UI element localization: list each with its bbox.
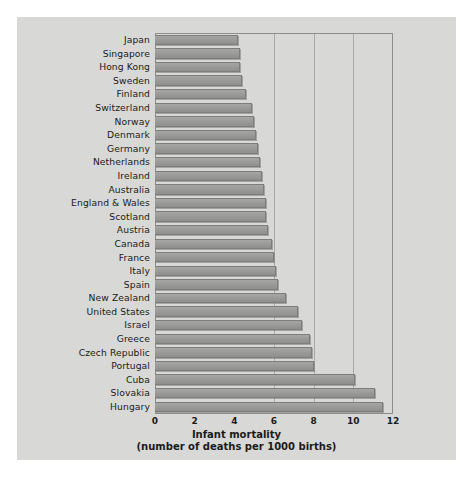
category-label: Cuba xyxy=(0,373,150,387)
bar xyxy=(155,130,256,140)
bar-row: Australia xyxy=(34,183,393,197)
bar xyxy=(155,184,264,194)
bar-row: Slovakia xyxy=(34,386,393,400)
bar-row: Hong Kong xyxy=(34,60,393,74)
bar-row: Cuba xyxy=(34,373,393,387)
category-label: Singapore xyxy=(0,47,150,61)
bar-row: France xyxy=(34,251,393,265)
bar-row: Switzerland xyxy=(34,101,393,115)
bar xyxy=(155,361,314,371)
category-label: England & Wales xyxy=(0,196,150,210)
bar-row: Hungary xyxy=(34,400,393,414)
bar-track xyxy=(155,48,240,58)
bar xyxy=(155,374,355,384)
bar-track xyxy=(155,252,274,262)
bar xyxy=(155,75,242,85)
x-axis-ticks: 024681012 xyxy=(155,416,393,430)
bar-row: Austria xyxy=(34,223,393,237)
bar-row: Portugal xyxy=(34,359,393,373)
bar-track xyxy=(155,388,375,398)
bar-track xyxy=(155,402,383,412)
bar-track xyxy=(155,62,240,72)
bar-row: Scotland xyxy=(34,210,393,224)
category-label: Hong Kong xyxy=(0,60,150,74)
bar xyxy=(155,320,302,330)
bar-row: United States xyxy=(34,305,393,319)
bar xyxy=(155,48,240,58)
bar-track xyxy=(155,184,264,194)
bar-track xyxy=(155,225,268,235)
x-tick-label: 12 xyxy=(387,416,400,426)
bar-row: Denmark xyxy=(34,128,393,142)
category-label: Switzerland xyxy=(0,101,150,115)
bar xyxy=(155,171,262,181)
bar-track xyxy=(155,211,266,221)
category-label: Ireland xyxy=(0,169,150,183)
bar xyxy=(155,239,272,249)
bar-track xyxy=(155,89,246,99)
bar-row: Czech Republic xyxy=(34,346,393,360)
x-tick-label: 6 xyxy=(271,416,277,426)
bar xyxy=(155,225,268,235)
category-label: Israel xyxy=(0,318,150,332)
bar-track xyxy=(155,374,355,384)
bar-row: Spain xyxy=(34,278,393,292)
bar-row: New Zealand xyxy=(34,291,393,305)
category-label: New Zealand xyxy=(0,291,150,305)
bar-track xyxy=(155,361,314,371)
bar-track xyxy=(155,293,286,303)
x-tick-label: 0 xyxy=(152,416,158,426)
category-label: Portugal xyxy=(0,359,150,373)
bar xyxy=(155,306,298,316)
bar-track xyxy=(155,143,258,153)
bar xyxy=(155,89,246,99)
bar-row: Finland xyxy=(34,87,393,101)
bar-track xyxy=(155,198,266,208)
x-axis-title: Infant mortality xyxy=(17,429,456,440)
bar-track xyxy=(155,266,276,276)
category-label: France xyxy=(0,251,150,265)
category-label: Hungary xyxy=(0,400,150,414)
x-tick-label: 4 xyxy=(231,416,237,426)
bar xyxy=(155,402,383,412)
bar xyxy=(155,198,266,208)
bar-track xyxy=(155,279,278,289)
bar-row: England & Wales xyxy=(34,196,393,210)
bar xyxy=(155,266,276,276)
bar-row: Singapore xyxy=(34,47,393,61)
bar-row: Norway xyxy=(34,115,393,129)
x-tick-label: 10 xyxy=(347,416,360,426)
bar xyxy=(155,62,240,72)
category-label: Scotland xyxy=(0,210,150,224)
category-label: Japan xyxy=(0,33,150,47)
category-label: United States xyxy=(0,305,150,319)
category-label: Denmark xyxy=(0,128,150,142)
bar-row: Sweden xyxy=(34,74,393,88)
bar xyxy=(155,293,286,303)
x-tick-label: 2 xyxy=(192,416,198,426)
bar xyxy=(155,211,266,221)
chart-figure: JapanSingaporeHong KongSwedenFinlandSwit… xyxy=(17,17,456,460)
bar xyxy=(155,279,278,289)
bar xyxy=(155,103,252,113)
category-label: Austria xyxy=(0,223,150,237)
bar-row: Israel xyxy=(34,318,393,332)
category-label: Norway xyxy=(0,115,150,129)
category-label: Slovakia xyxy=(0,386,150,400)
bar-row: Ireland xyxy=(34,169,393,183)
bar-track xyxy=(155,347,312,357)
bar-track xyxy=(155,130,256,140)
category-label: Finland xyxy=(0,87,150,101)
bar xyxy=(155,35,238,45)
x-axis-subtitle: (number of deaths per 1000 births) xyxy=(17,441,456,452)
bar xyxy=(155,157,260,167)
bar-track xyxy=(155,171,262,181)
bar-row: Greece xyxy=(34,332,393,346)
category-label: Greece xyxy=(0,332,150,346)
bar xyxy=(155,388,375,398)
category-label: Germany xyxy=(0,142,150,156)
bar xyxy=(155,334,310,344)
category-label: Australia xyxy=(0,183,150,197)
bar-track xyxy=(155,239,272,249)
bar-row: Germany xyxy=(34,142,393,156)
